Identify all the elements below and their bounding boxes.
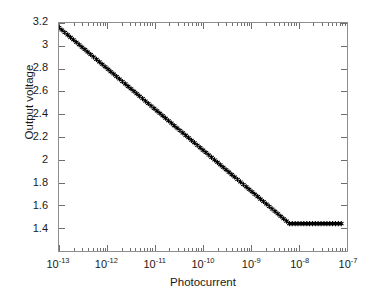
y-tick-label: 2: [0, 154, 48, 165]
y-tick-label: 3: [0, 39, 48, 50]
y-tick-label: 1.6: [0, 200, 48, 211]
y-tick-label: 2.4: [0, 108, 48, 119]
y-tick-label: 1.4: [0, 223, 48, 234]
x-tick-label: 10-10: [191, 259, 214, 270]
scatter-markers: [59, 25, 343, 226]
x-tick-label: 10-8: [290, 259, 309, 270]
y-axis-title: Output voltage: [23, 32, 35, 172]
y-tick-label: 2.2: [0, 131, 48, 142]
plot-area: [58, 22, 348, 252]
x-tick-label: 10-9: [242, 259, 261, 270]
y-tick-label: 1.8: [0, 177, 48, 188]
figure-canvas: Output voltage 1.41.61.822.22.42.62.833.…: [0, 0, 376, 301]
x-tick-label: 10-11: [143, 259, 166, 270]
axis-ticks: [59, 23, 347, 251]
y-tick-label: 3.2: [0, 16, 48, 27]
y-tick-label: 2.8: [0, 62, 48, 73]
y-tick-label: 2.6: [0, 85, 48, 96]
x-tick-label: 10-12: [95, 259, 118, 270]
data-series-layer: [59, 23, 347, 251]
x-tick-label: 10-7: [339, 259, 358, 270]
x-tick-label: 10-13: [46, 259, 69, 270]
x-axis-title: Photocurrent: [58, 276, 348, 288]
